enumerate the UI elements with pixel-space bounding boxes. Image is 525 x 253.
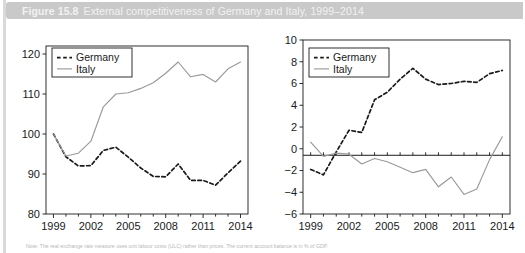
charts-row: 8090100110120199920022005200820112014Ger… <box>6 22 523 237</box>
x-tick-label: 2002 <box>79 220 103 232</box>
y-tick-label: 0 <box>291 143 297 155</box>
chart-panel-current-account: −6−4−20246810199920022005200820112014Ger… <box>265 22 523 237</box>
y-tick-label: 2 <box>291 121 297 133</box>
x-tick-label: 2008 <box>153 220 177 232</box>
x-tick-label: 2011 <box>452 220 476 232</box>
y-tick-label: 110 <box>22 88 40 100</box>
x-tick-label: 2005 <box>375 220 399 232</box>
x-tick-label: 1999 <box>41 220 65 232</box>
legend-label-italy: Italy <box>76 63 96 75</box>
y-tick-label: −2 <box>284 164 297 176</box>
figure-caption: External competitiveness of Germany and … <box>84 5 364 17</box>
y-tick-label: −4 <box>284 186 297 198</box>
y-tick-label: −6 <box>284 208 297 220</box>
figure-note: Note: The real exchange rate measure use… <box>26 243 506 249</box>
line-chart-left: 8090100110120199920022005200820112014Ger… <box>6 22 264 237</box>
figure-number: Figure 15.8 <box>22 5 79 17</box>
x-tick-label: 2011 <box>191 220 215 232</box>
y-tick-label: 10 <box>285 34 297 46</box>
y-tick-label: 6 <box>291 77 297 89</box>
x-tick-label: 2014 <box>228 220 252 232</box>
legend-label-italy: Italy <box>333 63 353 75</box>
y-tick-label: 100 <box>22 128 40 140</box>
legend-label-germany: Germany <box>333 51 377 63</box>
line-chart-right: −6−4−20246810199920022005200820112014Ger… <box>265 22 523 237</box>
x-tick-label: 2002 <box>337 220 361 232</box>
figure-title: Figure 15.8External competitiveness of G… <box>22 5 364 17</box>
x-tick-label: 2005 <box>116 220 140 232</box>
chart-panel-real-exchange-rate: 8090100110120199920022005200820112014Ger… <box>6 22 264 237</box>
x-tick-label: 2014 <box>490 220 514 232</box>
legend-label-germany: Germany <box>76 51 120 63</box>
y-tick-label: 80 <box>28 208 40 220</box>
y-tick-label: 120 <box>22 48 40 60</box>
y-tick-label: 90 <box>28 168 40 180</box>
y-tick-label: 8 <box>291 56 297 68</box>
x-tick-label: 1999 <box>298 220 322 232</box>
figure-container: Figure 15.8External competitiveness of G… <box>0 0 525 253</box>
x-tick-label: 2008 <box>413 220 437 232</box>
y-tick-label: 4 <box>291 99 297 111</box>
figure-title-bar: Figure 15.8External competitiveness of G… <box>6 2 523 19</box>
